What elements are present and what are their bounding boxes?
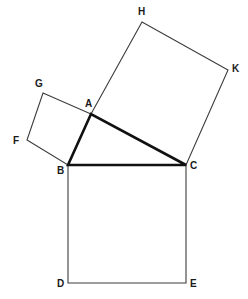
vertex-label-F: F — [13, 136, 19, 146]
square-achk — [91, 22, 228, 165]
vertex-label-D: D — [57, 279, 64, 289]
vertex-label-C: C — [190, 161, 197, 171]
vertex-label-K: K — [232, 64, 239, 74]
vertex-label-G: G — [35, 79, 43, 89]
vertex-label-E: E — [190, 279, 197, 289]
vertex-label-H: H — [138, 7, 145, 17]
right-triangle-abc — [68, 114, 186, 165]
square-bced — [68, 165, 186, 283]
vertex-label-B: B — [57, 166, 64, 176]
geometry-canvas — [0, 0, 248, 299]
square-abfg — [27, 93, 91, 165]
geometry-figure: A B C D E F G H K — [0, 0, 248, 299]
vertex-label-A: A — [85, 99, 92, 109]
